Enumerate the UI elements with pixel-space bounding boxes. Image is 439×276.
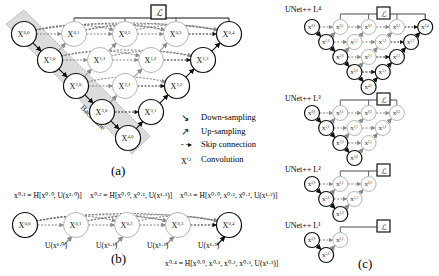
conv-node: X2,0 xyxy=(333,207,348,222)
subfig-title-l4: UNet++ L⁴ xyxy=(285,5,321,14)
panel-c-caption: (c) xyxy=(358,256,372,272)
conv-node: X0,1 xyxy=(333,106,348,121)
conv-node: X0,4 xyxy=(217,22,242,47)
conv-node: X1,0 xyxy=(38,48,63,73)
conv-node: X0,3 xyxy=(164,22,189,47)
conv-node: X0,1 xyxy=(333,177,348,192)
conv-node: X1,0 xyxy=(319,35,334,50)
conv-node: X0,2 xyxy=(361,177,376,192)
conv-node: X0,0 xyxy=(13,213,38,238)
conv-node: X0,1 xyxy=(333,233,348,248)
skip-arrow-icon: - -▸ xyxy=(181,138,201,152)
conv-node: X3,0 xyxy=(90,100,115,125)
conv-node: X0,2 xyxy=(361,106,376,121)
upsample-label-3: U(x¹·²) xyxy=(147,241,168,250)
conv-node: X4,0 xyxy=(361,80,376,95)
formula-x03: x⁰·³ = H[x⁰·⁰, x⁰·¹, x⁰·², U(x¹·²)] xyxy=(180,191,278,200)
conv-node: X2,1 xyxy=(113,74,138,99)
legend-item-skip: - -▸ Skip connection xyxy=(181,138,256,152)
conv-node: X0,0 xyxy=(305,177,320,192)
conv-node: X1,0 xyxy=(319,248,334,263)
conv-node: X2,0 xyxy=(64,74,89,99)
conv-node: X2,0 xyxy=(333,50,348,65)
upsample-label-2: U(x¹·¹) xyxy=(96,241,117,250)
loss-icon: ℒ xyxy=(156,8,163,18)
conv-node: X2,1 xyxy=(361,50,376,65)
conv-node: X4,0 xyxy=(116,126,141,151)
conv-node: X1,2 xyxy=(375,35,390,50)
conv-node: X3,1 xyxy=(139,100,164,125)
conv-node: X0,0 xyxy=(305,106,320,121)
panel-a-caption: (a) xyxy=(111,163,125,179)
conv-node: X3,0 xyxy=(347,151,362,166)
conv-node: X1,1 xyxy=(347,35,362,50)
panel-b-caption: (b) xyxy=(111,251,126,267)
conv-node: X2,0 xyxy=(333,136,348,151)
conv-node: X1,1 xyxy=(347,121,362,136)
legend-item-up: ↗ Up-sampling xyxy=(181,125,256,139)
conv-node: X1,1 xyxy=(88,48,113,73)
legend-item-conv: Xi,j Convolution xyxy=(181,152,256,168)
conv-node: X0,4 xyxy=(418,20,433,35)
subfig-title-l2: UNet++ L² xyxy=(285,165,321,174)
conv-node: X0,3 xyxy=(166,213,191,238)
conv-node: X0,2 xyxy=(115,213,140,238)
up-arrow-icon: ↗ xyxy=(181,125,201,139)
subfig-title-l3: UNet++ L³ xyxy=(285,94,321,103)
conv-node: X1,0 xyxy=(319,192,334,207)
formula-x01: x⁰·¹ = H[x⁰·⁰, U(x¹·⁰)] xyxy=(14,191,82,200)
subfig-title-l1: UNet++ L¹ xyxy=(285,221,321,230)
subfig-l4: ℒX0,0X0,1X0,2X0,3X0,4X1,0X1,1X1,2X1,3X2,… xyxy=(305,7,433,95)
down-arrow-icon: ↘ xyxy=(181,111,201,125)
conv-node: X2,2 xyxy=(389,50,404,65)
conv-node: X1,0 xyxy=(319,121,334,136)
conv-node: X3,1 xyxy=(375,65,390,80)
legend-label: Up-sampling xyxy=(201,125,245,139)
legend-label: Down-sampling xyxy=(201,111,256,125)
conv-node: X1,2 xyxy=(375,121,390,136)
conv-node: X0,1 xyxy=(64,213,89,238)
formula-x04: x⁰·⁴ = H[x⁰·⁰, x⁰·¹, x⁰·², x⁰·³, U(x¹·³)… xyxy=(165,259,278,268)
subfig-l3: ℒX0,0X0,1X0,2X0,3X1,0X1,1X1,2X2,0X2,1X3,… xyxy=(305,93,405,166)
upsample-label-4: U(x¹·³) xyxy=(198,241,219,250)
conv-node: X3,0 xyxy=(347,65,362,80)
conv-node: X1,2 xyxy=(139,48,164,73)
conv-node: X0,0 xyxy=(305,233,320,248)
legend-label: Convolution xyxy=(201,153,244,167)
legend-item-down: ↘ Down-sampling xyxy=(181,111,256,125)
conv-node: X0,3 xyxy=(389,20,404,35)
conv-symbol-icon: Xi,j xyxy=(181,152,201,168)
conv-node: X0,1 xyxy=(333,20,348,35)
conv-node: X2,1 xyxy=(361,136,376,151)
panel-c-diagram: ℒX0,0X0,1X0,2X0,3X0,4X1,0X1,1X1,2X1,3X2,… xyxy=(305,7,433,263)
conv-node: X0,0 xyxy=(12,22,37,47)
conv-node: X0,1 xyxy=(62,22,87,47)
conv-node: X1,3 xyxy=(404,35,419,50)
upsample-label-1: U(x¹·⁰) xyxy=(45,241,67,250)
conv-node: X1,3 xyxy=(191,48,216,73)
conv-node: X1,1 xyxy=(347,192,362,207)
conv-node: X0,2 xyxy=(113,22,138,47)
conv-node: X0,4 xyxy=(217,213,242,238)
conv-node: X0,2 xyxy=(361,20,376,35)
conv-node: X2,2 xyxy=(165,74,190,99)
legend: ↘ Down-sampling ↗ Up-sampling - -▸ Skip … xyxy=(181,111,256,168)
legend-label: Skip connection xyxy=(201,138,256,152)
conv-node: X0,0 xyxy=(305,20,320,35)
conv-node: X0,3 xyxy=(389,106,404,121)
formula-x02: x⁰·² = H[x⁰·⁰, x⁰·¹, U(x¹·¹)] xyxy=(90,191,172,200)
